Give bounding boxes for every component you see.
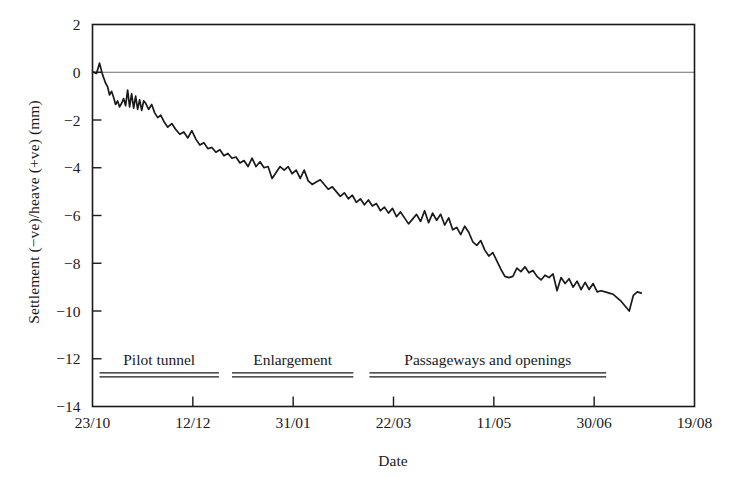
x-axis-tick-label: 19/08 xyxy=(677,414,713,431)
y-axis-tick-label: −8 xyxy=(64,255,81,272)
x-axis-tick-label: 12/12 xyxy=(175,414,210,431)
x-axis-tick-label: 23/10 xyxy=(75,414,111,431)
y-axis-tick-label: 2 xyxy=(73,16,81,33)
x-axis-tick-label: 11/05 xyxy=(476,414,511,431)
annotation-label: Pilot tunnel xyxy=(123,351,195,368)
y-axis-tick-label: −10 xyxy=(56,303,80,320)
y-axis-tick-label: −6 xyxy=(64,207,81,224)
annotation-label: Passageways and openings xyxy=(404,351,571,368)
x-axis-tick-label: 31/01 xyxy=(276,414,311,431)
x-axis-tick-label: 22/03 xyxy=(376,414,412,431)
annotation-label: Enlargement xyxy=(253,351,333,368)
x-axis-tick-label: 30/06 xyxy=(577,414,613,431)
y-axis-tick-label: −2 xyxy=(64,112,81,129)
y-axis-tick-label: 0 xyxy=(73,64,81,81)
y-axis-tick-label: −14 xyxy=(56,398,80,415)
settlement-chart-figure: Settlement (−ve)/heave (+ve) (mm) 20−2−4… xyxy=(0,0,735,484)
chart-plot-area: 20−2−4−6−8−10−12−1423/1012/1231/0122/031… xyxy=(0,0,735,484)
plot-frame xyxy=(93,25,695,407)
y-axis-tick-label: −4 xyxy=(64,159,81,176)
y-axis-tick-label: −12 xyxy=(56,350,80,367)
data-series-line xyxy=(94,63,642,311)
x-axis-title: Date xyxy=(92,452,694,470)
